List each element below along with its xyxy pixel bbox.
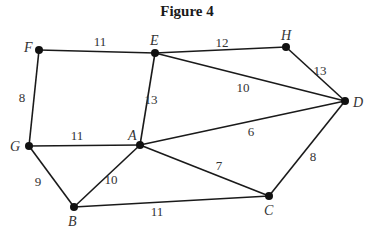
edge-weights-layer: 111213108131169107811 — [19, 34, 327, 219]
edge-F-G — [29, 50, 39, 146]
node-F — [35, 46, 43, 54]
node-G — [25, 142, 33, 150]
node-labels-layer: FEHDGABC — [10, 28, 363, 229]
node-label-D: D — [352, 95, 363, 110]
node-H — [282, 43, 290, 51]
edge-weight-E-H: 12 — [216, 35, 229, 50]
node-label-E: E — [149, 33, 159, 48]
edges-layer — [29, 47, 345, 207]
edge-weight-A-B: 10 — [105, 172, 118, 187]
edge-weight-A-D: 6 — [248, 124, 255, 139]
node-label-B: B — [68, 214, 77, 229]
figure-title: Figure 4 — [160, 3, 214, 19]
nodes-layer — [25, 43, 349, 211]
node-label-F: F — [23, 40, 33, 55]
node-label-C: C — [264, 203, 274, 218]
edge-weight-E-A: 13 — [145, 92, 158, 107]
node-label-G: G — [10, 139, 20, 154]
node-label-A: A — [127, 128, 137, 143]
edge-G-A — [29, 145, 140, 146]
edge-weight-A-C: 7 — [216, 158, 223, 173]
node-E — [151, 49, 159, 57]
node-C — [265, 192, 273, 200]
node-A — [136, 141, 144, 149]
edge-weight-G-B: 9 — [35, 174, 42, 189]
edge-F-E — [39, 50, 155, 53]
weighted-graph-figure: Figure 4 111213108131169107811 FEHDGABC — [0, 0, 374, 234]
edge-weight-H-D: 13 — [314, 63, 327, 78]
node-B — [70, 203, 78, 211]
edge-weight-F-G: 8 — [19, 90, 26, 105]
edge-weight-F-E: 11 — [94, 34, 107, 49]
node-label-H: H — [280, 28, 292, 43]
node-D — [341, 97, 349, 105]
edge-B-C — [74, 196, 269, 207]
edge-weight-D-C: 8 — [310, 149, 317, 164]
edge-weight-G-A: 11 — [71, 128, 84, 143]
edge-A-C — [140, 145, 269, 196]
edge-weight-B-C: 11 — [151, 204, 164, 219]
edge-weight-E-D: 10 — [237, 80, 250, 95]
